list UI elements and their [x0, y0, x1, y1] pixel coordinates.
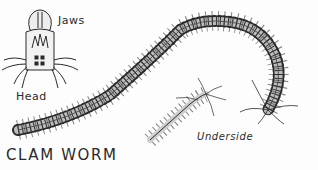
head-label: Head	[16, 90, 47, 103]
clam-worm-body-drawing	[18, 21, 298, 130]
illustration-title: CLAM WORM	[6, 146, 118, 164]
underside-label: Underside	[197, 131, 253, 142]
drawing-layer	[0, 0, 318, 170]
jaws-label: Jaws	[58, 14, 85, 27]
clam-worm-illustration: Jaws Head Underside CLAM WORM	[0, 0, 318, 170]
